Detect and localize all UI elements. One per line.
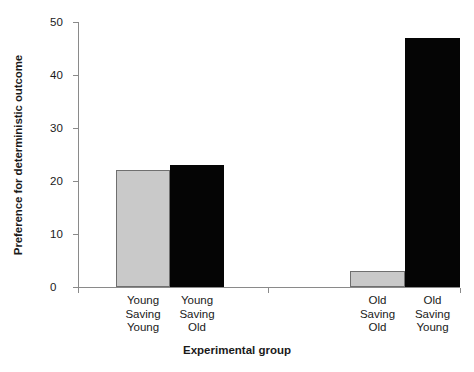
plot-area: 50403020100 <box>78 22 460 287</box>
y-axis-title-text: Preference for deterministic outcome <box>12 55 24 255</box>
y-tick-label: 10 <box>50 228 64 240</box>
category-label: Young Saving Young <box>116 294 170 335</box>
y-axis-title: Preference for deterministic outcome <box>8 22 28 288</box>
category-label: Young Saving Old <box>170 294 224 335</box>
y-tick-mark <box>73 75 78 76</box>
y-tick-label: 40 <box>50 69 64 81</box>
x-axis-line <box>78 287 460 288</box>
x-axis-title: Experimental group <box>0 344 474 356</box>
y-tick-label: 20 <box>50 175 64 187</box>
x-tick-mark <box>460 288 461 293</box>
bar <box>170 165 224 287</box>
y-tick-mark <box>73 22 78 23</box>
bar-chart-figure: Preference for deterministic outcome 504… <box>0 0 474 372</box>
bar <box>116 170 170 287</box>
y-axis-line <box>78 22 79 287</box>
bar <box>350 271 405 287</box>
x-tick-mark <box>78 288 79 293</box>
y-tick-label: 30 <box>50 122 64 134</box>
y-tick-mark <box>73 128 78 129</box>
y-tick-mark <box>73 234 78 235</box>
category-label: Old Saving Old <box>350 294 405 335</box>
category-label: Old Saving Young <box>405 294 460 335</box>
bar <box>405 38 460 287</box>
y-tick-label: 0 <box>50 281 64 293</box>
y-tick-label: 50 <box>50 16 64 28</box>
y-tick-mark <box>73 181 78 182</box>
x-tick-mark <box>268 288 269 293</box>
